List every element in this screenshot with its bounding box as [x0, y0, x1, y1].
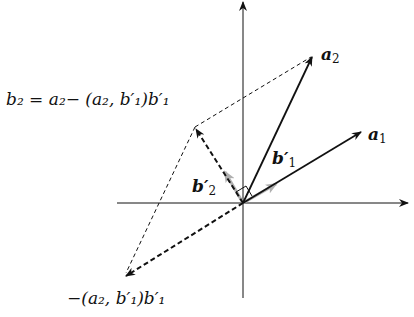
label-b2-formula: b₂ = a₂− (a₂, b′₁)b′₁: [6, 91, 169, 108]
label-b1-prime: b′1: [272, 150, 296, 169]
vector-a2: [243, 57, 312, 203]
label-neg-projection: −(a₂, b′₁)b′₁: [67, 290, 165, 307]
label-b2-prime: b′2: [192, 178, 216, 197]
label-a2: a2: [321, 46, 340, 65]
parallelogram-left: [126, 127, 195, 273]
vector-neg-projection: [126, 203, 243, 276]
label-a1: a1: [368, 126, 387, 145]
parallelogram-top: [195, 57, 311, 127]
diagram-canvas: [0, 0, 414, 317]
